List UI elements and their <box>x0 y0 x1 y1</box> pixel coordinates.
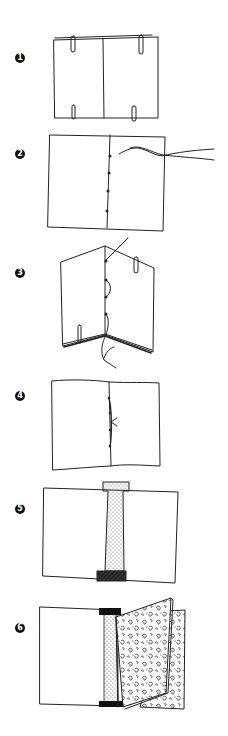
spine-strip-drawing <box>0 475 228 590</box>
sewing-spine-drawing <box>0 230 228 370</box>
punched-holes-drawing <box>0 120 228 235</box>
thread-icon <box>119 148 214 156</box>
clipped-sheets-drawing <box>0 0 228 125</box>
paper-clip-icon <box>132 106 136 121</box>
paper-clip-icon <box>71 36 75 52</box>
step-1: 1 <box>0 0 228 125</box>
step-3: 3 <box>0 230 228 370</box>
step-2: 2 <box>0 120 228 235</box>
paper-clip-icon <box>72 105 75 119</box>
headband-bottom <box>99 701 124 707</box>
step-4: 4 <box>0 365 228 475</box>
step-6: 6 <box>0 590 228 736</box>
spine-strip <box>103 482 129 571</box>
step-5: 5 <box>0 475 228 590</box>
attach-cover-drawing <box>0 590 228 736</box>
headband-top <box>99 608 121 615</box>
stitched-spine-drawing <box>0 365 228 475</box>
headband <box>97 571 126 581</box>
needle-icon <box>105 238 128 261</box>
front-cover-board <box>116 598 171 707</box>
